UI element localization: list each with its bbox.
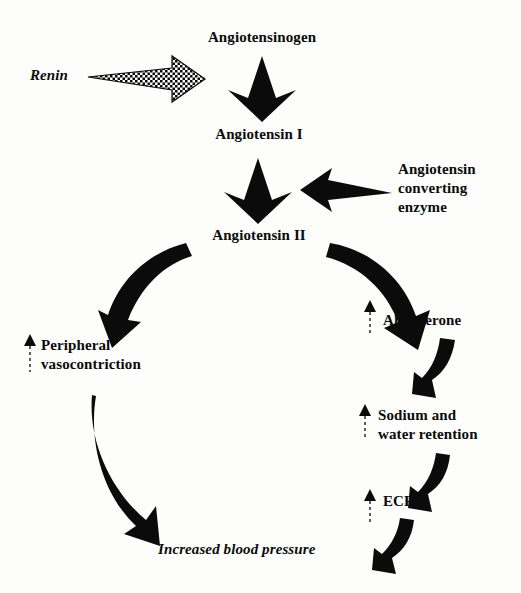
arrow-angiotensinogen-to-angiotensin-1 — [228, 56, 296, 122]
node-renin: Renin — [30, 66, 68, 85]
arrow-renin-to-angiotensinogen — [88, 56, 205, 102]
node-angiotensinogen: Angiotensinogen — [208, 28, 316, 47]
arrow-angiotensin-2-to-aldosterone — [326, 243, 430, 350]
increase-marker-sodium-water-retention — [359, 404, 371, 440]
increase-marker-ecf — [364, 489, 376, 524]
arrow-angiotensin-2-to-peripheral-vasoconstriction — [98, 243, 192, 348]
raas-diagram: Angiotensinogen Renin Angiotensin I Angi… — [0, 0, 521, 593]
node-angiotensin-2: Angiotensin II — [212, 226, 306, 245]
increase-marker-aldosterone — [364, 300, 376, 336]
diagram-arrow-layer — [0, 0, 521, 593]
node-increased-blood-pressure: Increased blood pressure — [158, 540, 315, 559]
arrow-angiotensin-1-to-angiotensin-2 — [224, 158, 292, 224]
node-aldosterone: Aldosterone — [383, 311, 461, 330]
arrow-peripheral-vasoconstriction-to-increased-bp — [92, 395, 160, 546]
node-ecf: ECF — [383, 492, 413, 511]
increase-marker-peripheral-vasoconstriction — [24, 334, 36, 372]
arrow-sodium-water-retention-to-ecf — [408, 453, 450, 512]
node-angiotensin-1: Angiotensin I — [215, 125, 303, 144]
arrow-ace-to-conversion — [300, 168, 392, 212]
node-angiotensin-converting-enzyme: Angiotensin converting enzyme — [398, 160, 476, 218]
arrow-aldosterone-to-sodium-water-retention — [412, 338, 455, 398]
arrow-ecf-to-increased-bp — [372, 518, 414, 574]
node-sodium-water-retention: Sodium and water retention — [378, 406, 478, 444]
node-peripheral-vasoconstriction: Peripheral vasocontriction — [41, 336, 141, 374]
